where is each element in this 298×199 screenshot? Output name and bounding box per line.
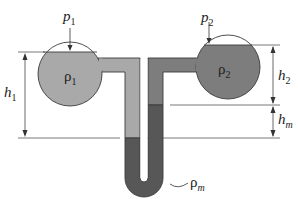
h1-dimension-arrow <box>23 53 28 137</box>
left-connector-pipe <box>98 58 140 138</box>
p2-label: p2 <box>200 9 214 28</box>
h1-label: h1 <box>4 84 17 103</box>
h2-label: h2 <box>278 67 291 86</box>
hm-label: hm <box>278 111 293 130</box>
u-tube-inner-gap <box>141 59 148 178</box>
rhom-leader-line <box>170 183 188 187</box>
manometer-diagram: p1 p2 ρ1 ρ2 ρm h1 h2 hm <box>0 0 298 199</box>
right-connector-pipe <box>148 58 200 105</box>
rhom-label: ρm <box>190 174 205 193</box>
hm-dimension-arrow <box>271 106 276 137</box>
h2-dimension-arrow <box>271 46 276 104</box>
p1-label: p1 <box>62 8 76 27</box>
